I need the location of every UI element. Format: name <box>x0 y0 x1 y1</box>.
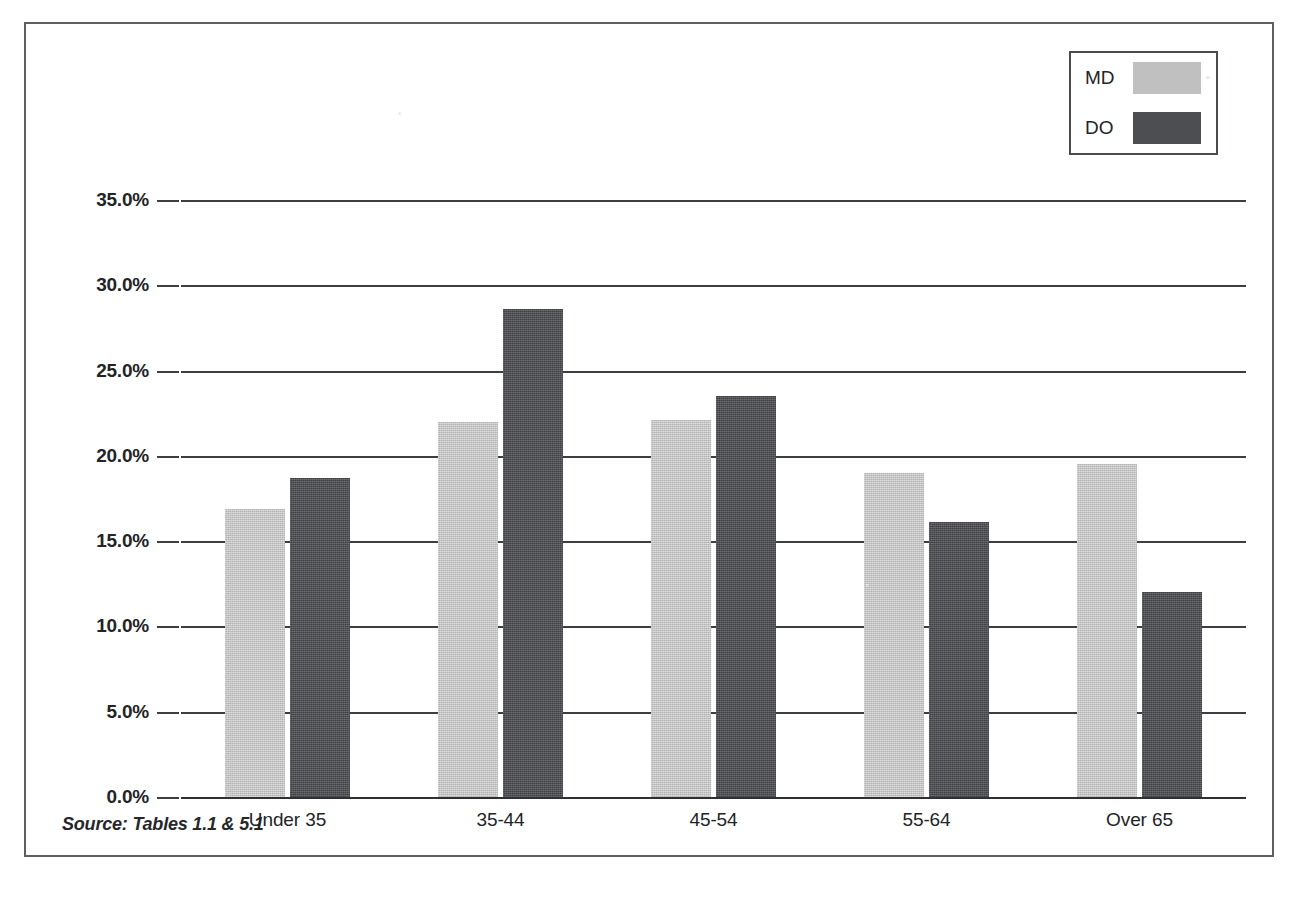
x-axis-category-label: 35-44 <box>476 809 524 831</box>
y-axis-tick-mark <box>157 456 179 458</box>
bar-md <box>1077 464 1138 797</box>
x-axis-category-label: 55-64 <box>902 809 950 831</box>
y-axis-tick-mark <box>157 797 179 799</box>
y-axis-tick-mark <box>157 200 179 202</box>
clipped-figure-title <box>24 0 924 6</box>
chart-legend: MD DO <box>1069 51 1218 155</box>
bar-group <box>394 200 607 797</box>
y-axis-tick-mark <box>157 626 179 628</box>
y-axis-tick-mark <box>157 285 179 287</box>
y-axis-tick-mark <box>157 371 179 373</box>
x-axis-category-label: 45-54 <box>689 809 737 831</box>
bar-md <box>438 422 499 797</box>
bar-do <box>716 396 777 797</box>
y-axis-tick-label: 0.0% <box>106 786 149 808</box>
bar-chart-plot-area: 0.0%5.0%10.0%15.0%20.0%25.0%30.0%35.0% U… <box>181 200 1246 797</box>
legend-swatch-do <box>1133 112 1201 144</box>
source-note: Source: Tables 1.1 & 5.1 <box>62 814 264 835</box>
figure-frame: 0.0%5.0%10.0%15.0%20.0%25.0%30.0%35.0% U… <box>24 22 1274 857</box>
legend-item-label: DO <box>1085 117 1129 139</box>
bar-md <box>864 473 925 797</box>
y-axis-tick-mark <box>157 712 179 714</box>
y-axis-tick-label: 10.0% <box>96 615 149 637</box>
legend-item-do: DO <box>1071 103 1216 153</box>
y-axis-tick-mark <box>157 541 179 543</box>
legend-item-label: MD <box>1085 67 1129 89</box>
bar-group <box>607 200 820 797</box>
bar-do <box>1142 592 1203 797</box>
y-axis-tick-label: 20.0% <box>96 445 149 467</box>
legend-item-md: MD <box>1071 53 1216 103</box>
bar-md <box>651 420 712 797</box>
bar-do <box>503 309 564 797</box>
y-axis-tick-label: 15.0% <box>96 530 149 552</box>
axis-baseline <box>181 797 1246 799</box>
bar-do <box>929 522 990 797</box>
bar-md <box>225 509 286 797</box>
y-axis-tick-label: 30.0% <box>96 274 149 296</box>
y-axis-tick-label: 5.0% <box>106 701 149 723</box>
y-axis-tick-label: 25.0% <box>96 360 149 382</box>
legend-swatch-md <box>1133 62 1201 94</box>
bar-group <box>1033 200 1246 797</box>
bar-do <box>290 478 351 797</box>
x-axis-category-label: Over 65 <box>1106 809 1173 831</box>
scan-speckle <box>398 112 401 115</box>
bar-group <box>181 200 394 797</box>
y-axis-tick-label: 35.0% <box>96 189 149 211</box>
bar-group <box>820 200 1033 797</box>
